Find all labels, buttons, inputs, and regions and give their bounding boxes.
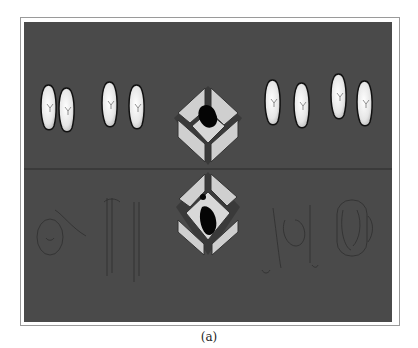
scene-graphic bbox=[24, 22, 392, 322]
figure-scene bbox=[24, 22, 392, 322]
figure-caption: (a) bbox=[0, 330, 418, 344]
